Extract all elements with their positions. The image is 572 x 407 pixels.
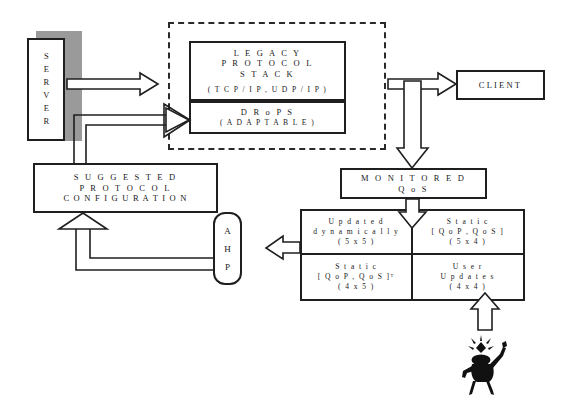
cell-1-line-1: S t a t i c — [447, 217, 489, 227]
connector-ahp-to-config-outer — [76, 229, 213, 270]
cell-2-line-1: S t a t i c — [335, 262, 377, 272]
suggested-config-line-1: S U G G E S T E D — [74, 172, 178, 183]
qos-matrix-cell-user-updates[interactable]: U s e r U p d a t e s ( 4 x 4 ) — [413, 255, 524, 299]
diagram-canvas: SERVER L E G A C Y P R O T O C O L S T A… — [0, 0, 572, 407]
connector-config-to-drops-outer — [74, 115, 170, 163]
legacy-stack-line-2: P R O T O C O L — [221, 58, 313, 69]
block-arrow-right-icon-stack-to-client — [388, 73, 456, 95]
connector-ahp-to-config-inner — [90, 229, 213, 258]
legacy-stack-line-1: L E G A C Y — [234, 48, 302, 59]
drops-adaptable-box[interactable]: D R o P S ( A D A P T A B L E ) — [189, 101, 346, 134]
server-label: SERVER — [41, 51, 52, 129]
drops-label: D R o P S — [241, 107, 295, 118]
qos-matrix-cell-updated-dynamically[interactable]: U p d a t e d d y n a m i c a l l y ( 5 … — [302, 211, 413, 255]
qos-matrix-cell-static-transpose[interactable]: S t a t i c [ Q o P , Q o S ]ᵀ ( 4 x 5 ) — [302, 255, 413, 299]
qos-matrix: U p d a t e d d y n a m i c a l l y ( 5 … — [300, 209, 525, 301]
monitored-qos-line-1: M O N I T O R E D — [361, 173, 466, 184]
client-label: CLIENT — [479, 80, 522, 91]
connector-config-to-drops-inner — [86, 125, 170, 163]
cell-0-line-1: U p d a t e d — [329, 217, 384, 227]
cell-2-line-2: [ Q o P , Q o S ]ᵀ — [318, 272, 395, 282]
cell-1-line-3: ( 5 x 4 ) — [449, 237, 486, 247]
suggested-protocol-configuration-box[interactable]: S U G G E S T E D P R O T O C O L C O N … — [33, 163, 218, 213]
ahp-letter-p: P — [225, 258, 230, 276]
cell-3-line-2: U p d a t e s — [441, 272, 495, 282]
cell-2-line-3: ( 4 x 5 ) — [338, 282, 375, 292]
block-arrow-head-ahp-to-config — [59, 213, 107, 229]
client-box[interactable]: CLIENT — [456, 70, 545, 100]
cell-0-line-3: ( 5 x 5 ) — [338, 237, 375, 247]
cell-3-line-1: U s e r — [453, 262, 483, 272]
server-box[interactable]: SERVER — [27, 38, 65, 141]
cell-3-line-3: ( 4 x 4 ) — [449, 282, 486, 292]
suggested-config-line-2: P R O T O C O L — [79, 183, 171, 194]
drops-adaptable-label: ( A D A P T A B L E ) — [220, 118, 315, 127]
cell-0-line-2: d y n a m i c a l l y — [313, 227, 399, 237]
cell-1-line-2: [ Q o P , Q o S ] — [431, 227, 504, 237]
monitored-qos-line-2: Q o S — [398, 184, 428, 195]
monitored-qos-box[interactable]: M O N I T O R E D Q o S — [340, 168, 487, 199]
ahp-letter-h: H — [224, 240, 231, 258]
ahp-letter-a: A — [224, 222, 231, 240]
suggested-config-line-3: C O N F I G U R A T I O N — [63, 193, 187, 204]
ahp-box[interactable]: A H P — [213, 212, 242, 285]
block-arrow-left-icon-matrix-to-ahp — [266, 236, 300, 259]
block-arrow-down-icon-stack-to-qos — [397, 81, 428, 168]
legacy-stack-line-3: S T A C K — [240, 69, 295, 80]
legacy-stack-protocols: ( T C P / I P , U D P / I P ) — [208, 85, 328, 94]
user-idea-figure-icon — [462, 335, 507, 395]
qos-matrix-cell-static-qop-qos[interactable]: S t a t i c [ Q o P , Q o S ] ( 5 x 4 ) — [413, 211, 524, 255]
legacy-protocol-stack-box[interactable]: L E G A C Y P R O T O C O L S T A C K ( … — [189, 41, 346, 101]
